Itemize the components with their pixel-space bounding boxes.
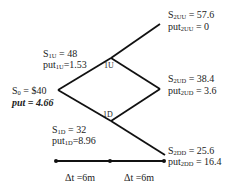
edge-1u-2uu bbox=[111, 24, 160, 58]
timeline-step-2-label: Δt =6m bbox=[124, 172, 154, 183]
dd2-put-label: put2DD = 16.4 bbox=[168, 156, 222, 169]
uu2-put-label: put2UU = 0 bbox=[168, 21, 209, 34]
edge-1u-2ud bbox=[111, 58, 160, 89]
edge-1d-2ud bbox=[111, 89, 160, 121]
timeline-dot-end bbox=[162, 159, 166, 163]
u1-node-tag: 1U bbox=[104, 61, 114, 70]
u1-put-label: put1U=1.53 bbox=[43, 59, 87, 72]
d1-put-label: put1D=8.96 bbox=[52, 135, 96, 148]
ud2-put-label: put2UD = 3.6 bbox=[168, 85, 217, 98]
timeline-dot-start bbox=[54, 159, 58, 163]
root-put-label: put = 4.66 bbox=[12, 97, 54, 108]
timeline-step-1-label: Δt =6m bbox=[65, 172, 95, 183]
d1-node-tag: 1D bbox=[103, 110, 113, 119]
edge-1d-2dd bbox=[111, 121, 165, 155]
timeline-dot-mid bbox=[108, 159, 112, 163]
